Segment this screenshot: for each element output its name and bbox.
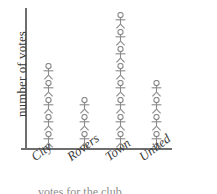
pictogram-chart: number of votes City Rovers Town United … xyxy=(0,0,217,194)
person-icon xyxy=(150,80,163,97)
person-icon xyxy=(114,63,127,80)
person-icon xyxy=(42,114,55,131)
clipped-caption: votes for the club xyxy=(38,185,217,194)
person-icon xyxy=(114,29,127,46)
person-icon xyxy=(42,97,55,114)
person-icon xyxy=(150,97,163,114)
person-icon xyxy=(114,114,127,131)
person-icon xyxy=(78,97,91,114)
person-icon xyxy=(78,114,91,131)
person-icon xyxy=(114,46,127,63)
person-icon xyxy=(42,63,55,80)
plot-area xyxy=(27,8,172,148)
pictogram-column-town xyxy=(103,12,137,148)
person-icon xyxy=(150,114,163,131)
person-icon xyxy=(42,80,55,97)
person-icon xyxy=(114,80,127,97)
pictogram-column-city xyxy=(31,63,65,148)
person-icon xyxy=(114,12,127,29)
person-icon xyxy=(114,97,127,114)
